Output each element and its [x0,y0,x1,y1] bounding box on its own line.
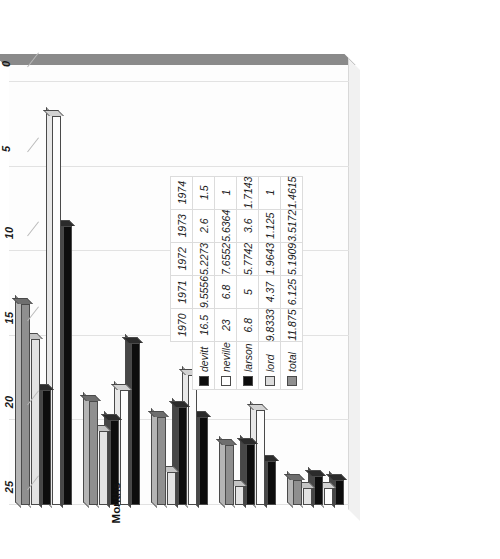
legend-label-lord: lord [264,354,276,372]
legend-label-devitt: devitt [198,347,210,372]
plot-sidewall [0,54,356,65]
cell-larson-1972: 5.7742 [237,242,259,275]
legend-swatch-devitt-icon [199,376,209,386]
table-row: neville236.87.65525.63641 [215,176,237,389]
bar-total-1973 [225,445,234,505]
bar-front-face [157,417,166,505]
bar-front-face [246,444,255,505]
bar-devitt-1974 [335,480,344,505]
table-header-row: 1970 1971 1972 1973 1974 [171,176,193,389]
bar-larson-1973 [246,444,255,505]
bar-front-face [99,431,108,505]
bar-neville-1972 [188,375,197,505]
cell-devitt-1974: 1.5 [193,176,215,209]
bar-front-face [303,488,312,505]
legend-entry-larson: larson [237,342,259,390]
bar-larson-1972 [178,407,187,505]
bar-chart-figure: 2520151050 Months 1970 1971 1972 1973 19… [0,0,500,559]
value-tick-20: 20 [3,396,15,408]
cell-larson-1970: 6.8 [237,309,259,342]
value-tick-0: 0 [0,61,12,67]
bar-neville-1974 [324,488,333,505]
value-axis-title: Months [110,483,122,524]
cell-total-1970: 11.875 [281,309,303,342]
bar-front-face [199,417,208,505]
bar-front-face [131,343,140,505]
legend-swatch-lord-icon [265,376,275,386]
cell-neville-1972: 7.6552 [215,242,237,275]
cell-neville-1974: 1 [215,176,237,209]
cell-total-1972: 5.1909 [281,242,303,275]
bar-front-face [63,226,72,505]
column-header-1973: 1973 [171,209,193,242]
value-tick-10: 10 [3,227,15,239]
bar-larson-1974 [314,476,323,505]
bar-lord-1974 [303,488,312,505]
bar-lord-1971 [99,431,108,505]
bar-front-face [293,480,302,505]
value-tick-25: 25 [3,481,15,493]
bar-front-face [256,410,265,505]
bar-group-1970 [9,65,77,505]
table-row: total11.8756.1255.19093.51721.4615 [281,176,303,389]
cell-lord-1973: 1.125 [259,209,281,242]
bar-neville-1973 [256,410,265,505]
bar-front-face [178,407,187,505]
legend-swatch-neville-icon [221,376,231,386]
cell-devitt-1970: 16.5 [193,309,215,342]
bar-front-face [335,480,344,505]
cell-total-1973: 3.5172 [281,209,303,242]
data-table-legend: 1970 1971 1972 1973 1974 devitt16.59.555… [170,280,500,390]
bar-lord-1972 [167,472,176,505]
column-header-1971: 1971 [171,275,193,308]
bar-neville-1970 [52,116,61,505]
legend-entry-devitt: devitt [193,342,215,390]
cell-lord-1974: 1 [259,176,281,209]
cell-lord-1972: 1.9643 [259,242,281,275]
bar-devitt-1973 [267,461,276,505]
bar-devitt-1971 [131,343,140,505]
bar-total-1974 [293,480,302,505]
cell-neville-1970: 23 [215,309,237,342]
bar-lord-1973 [235,486,244,505]
cell-devitt-1972: 5.2273 [193,242,215,275]
legend-swatch-larson-icon [243,376,253,386]
data-table: 1970 1971 1972 1973 1974 devitt16.59.555… [170,176,303,390]
bar-front-face [225,445,234,505]
bar-front-face [89,401,98,505]
column-header-1974: 1974 [171,176,193,209]
cell-devitt-1973: 2.6 [193,209,215,242]
bar-front-face [42,390,51,505]
bar-front-face [267,461,276,505]
cell-larson-1971: 5 [237,275,259,308]
legend-label-larson: larson [242,343,254,372]
table-row: lord9.83334.371.96431.1251 [259,176,281,389]
bar-larson-1970 [42,390,51,505]
bar-front-face [52,116,61,505]
bar-front-face [324,488,333,505]
bar-total-1971 [89,401,98,505]
cell-devitt-1971: 9.5556 [193,275,215,308]
cell-total-1971: 6.125 [281,275,303,308]
value-tick-5: 5 [0,146,12,152]
cell-lord-1971: 4.37 [259,275,281,308]
value-tick-15: 15 [3,312,15,324]
bar-devitt-1970 [63,226,72,505]
bar-devitt-1972 [199,417,208,505]
bar-front-face [314,476,323,505]
legend-entry-lord: lord [259,342,281,390]
column-header-1972: 1972 [171,242,193,275]
cell-lord-1970: 9.8333 [259,309,281,342]
bar-front-face [188,375,197,505]
legend-label-total: total [286,352,298,372]
legend-entry-total: total [281,342,303,390]
legend-entry-neville: neville [215,342,237,390]
cell-total-1974: 1.4615 [281,176,303,209]
cell-neville-1973: 5.6364 [215,209,237,242]
cell-larson-1974: 1.7143 [237,176,259,209]
legend-label-neville: neville [220,342,232,372]
column-header-1970: 1970 [171,309,193,342]
bar-total-1972 [157,417,166,505]
cell-neville-1971: 6.8 [215,275,237,308]
table-row: larson6.855.77423.61.7143 [237,176,259,389]
